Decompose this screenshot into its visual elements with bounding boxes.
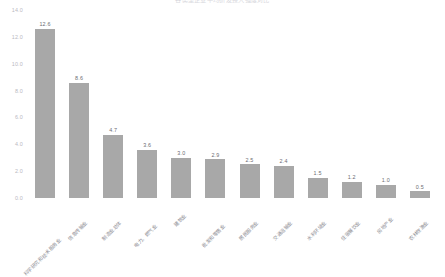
y-axis-tick: 4.0: [15, 141, 23, 147]
x-axis-tick-label: 农林牧渔业: [425, 202, 445, 224]
x-axis-tick-label-text: 水利环境业: [305, 220, 327, 242]
x-axis-slot: 农林牧渔业: [403, 200, 437, 258]
bar-slot: 4.7: [96, 10, 130, 198]
bar-value-label: 2.4: [280, 158, 288, 164]
bar-value-label: 3.0: [177, 150, 185, 156]
bar[interactable]: [240, 164, 260, 198]
x-axis-tick-label: 建筑业: [184, 202, 199, 217]
x-axis-slot: 批发和零售业: [198, 200, 232, 258]
chart-title: 各类型企业平均研发投入强度对比: [0, 0, 445, 3]
y-axis-tick: 14.0: [12, 7, 23, 13]
bar-slot: 8.6: [62, 10, 96, 198]
x-axis-tick-label-text: 制造业总体: [101, 220, 123, 242]
x-axis-slot: 水利环境业: [301, 200, 335, 258]
bar-value-label: 0.5: [416, 184, 424, 190]
x-axis-slot: 住宿餐饮业: [335, 200, 369, 258]
y-axis-tick: 2.0: [15, 168, 23, 174]
bar-slot: 1.2: [335, 10, 369, 198]
bar-value-label: 1.0: [382, 177, 390, 183]
bar[interactable]: [342, 182, 362, 198]
bar-value-label: 1.2: [348, 174, 356, 180]
y-axis-tick: 10.0: [12, 61, 23, 67]
bar-slot: 0.5: [403, 10, 437, 198]
bar-value-label: 1.5: [314, 170, 322, 176]
x-axis-slot: 房地产业: [369, 200, 403, 258]
x-axis-slot: 居民服务业: [232, 200, 266, 258]
bar-value-label: 3.6: [143, 142, 151, 148]
x-axis-tick-label-text: 电力、燃气业: [133, 223, 158, 248]
bar-value-label: 2.5: [245, 157, 253, 163]
x-axis-tick-label-text: 房地产业: [376, 216, 394, 234]
x-axis-slot: 信息传输业: [62, 200, 96, 258]
x-axis-tick-label-text: 住宿餐饮业: [339, 220, 361, 242]
x-axis-slot: 交通运输业: [267, 200, 301, 258]
bar-value-label: 8.6: [75, 75, 83, 81]
bar[interactable]: [410, 191, 430, 198]
y-axis-tick: 6.0: [15, 114, 23, 120]
bar-slot: 2.9: [198, 10, 232, 198]
bar[interactable]: [137, 150, 157, 198]
bar-value-label: 4.7: [109, 127, 117, 133]
bar-value-label: 2.9: [211, 152, 219, 158]
bar-slot: 3.0: [164, 10, 198, 198]
y-axis-tick: 0.0: [15, 195, 23, 201]
x-axis-tick-label-text: 居民服务业: [237, 220, 259, 242]
bar-slot: 1.5: [301, 10, 335, 198]
x-axis-tick-label-text: 科学研究和技术服务业: [22, 237, 62, 277]
bar-slot: 2.5: [232, 10, 266, 198]
x-axis-tick-label-text: 建筑业: [173, 213, 188, 228]
bar[interactable]: [205, 159, 225, 198]
x-axis-tick-label-text: 批发和零售业: [201, 223, 226, 248]
bar-slot: 1.0: [369, 10, 403, 198]
bar[interactable]: [308, 178, 328, 198]
bar-slot: 12.6: [28, 10, 62, 198]
x-axis: 科学研究和技术服务业信息传输业制造业总体电力、燃气业建筑业批发和零售业居民服务业…: [28, 200, 437, 258]
bar-series: 12.68.64.73.63.02.92.52.41.51.21.00.5: [28, 10, 437, 198]
bar[interactable]: [69, 83, 89, 198]
x-axis-slot: 制造业总体: [96, 200, 130, 258]
bar[interactable]: [171, 158, 191, 198]
y-axis-tick: 12.0: [12, 34, 23, 40]
x-axis-slot: 电力、燃气业: [130, 200, 164, 258]
bar-slot: 2.4: [267, 10, 301, 198]
x-axis-slot: 建筑业: [164, 200, 198, 258]
x-axis-tick-label-text: 农林牧渔业: [408, 220, 430, 242]
x-axis-slot: 科学研究和技术服务业: [28, 200, 62, 258]
bar[interactable]: [103, 135, 123, 198]
x-axis-tick-label-text: 信息传输业: [67, 220, 89, 242]
x-axis-tick-label-text: 交通运输业: [271, 220, 293, 242]
bar-slot: 3.6: [130, 10, 164, 198]
bar[interactable]: [35, 29, 55, 198]
bar[interactable]: [376, 185, 396, 198]
y-axis-tick: 8.0: [15, 88, 23, 94]
bar-value-label: 12.6: [39, 21, 50, 27]
bar[interactable]: [274, 166, 294, 198]
plot-area: 0.02.04.06.08.010.012.014.0 12.68.64.73.…: [28, 10, 437, 198]
